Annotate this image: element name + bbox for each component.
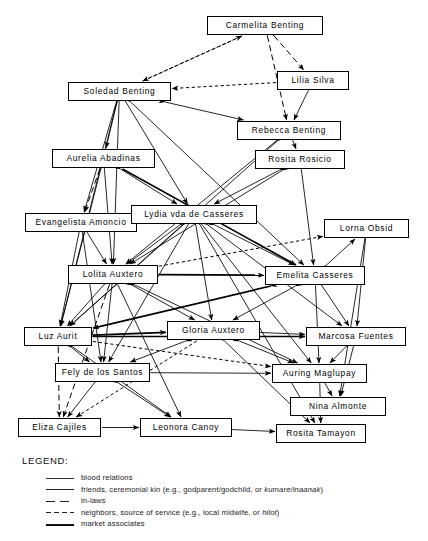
edge-emelita-to-gloria — [233, 286, 296, 320]
edge-fely-to-leonora — [118, 383, 170, 417]
edge-marcosa-to-auring — [330, 347, 346, 363]
node-leonora[interactable]: Leonora Canoy — [140, 418, 232, 437]
edge-lolita-to-fely — [104, 285, 112, 362]
edge-emelita-to-marcosa — [322, 286, 349, 326]
edge-luz-to-leonora — [73, 347, 171, 417]
legend-item-inlaws: in-laws — [22, 496, 412, 505]
edge-luz-to-gloria — [93, 332, 166, 335]
edge-soledad-to-carmelita — [143, 36, 242, 81]
node-aurelia[interactable]: Aurelia Abadinas — [52, 149, 155, 168]
node-label: Auring Maglupay — [283, 369, 356, 377]
edge-fely-to-eliza — [68, 383, 95, 417]
edge-soledad-to-rebecca — [165, 102, 243, 120]
edge-lilia-to-rebecca — [294, 91, 308, 120]
node-auring[interactable]: Auring Maglupay — [272, 364, 367, 383]
node-label: Lorna Obsid — [340, 224, 393, 232]
node-label: Marcosa Fuentes — [318, 332, 393, 340]
legend-item-neighbors: neighbors, source of service (e.g., loca… — [22, 508, 412, 517]
legend-line-blood-icon — [46, 474, 74, 482]
legend-item-friends: friends, ceremonial kin (e.g., godparent… — [22, 485, 412, 494]
node-gloria[interactable]: Gloria Auxtero — [167, 321, 260, 340]
node-label: Luz Aurit — [39, 332, 78, 340]
edge-rosita_r-to-lydia — [214, 170, 280, 204]
edge-aurelia-to-luz — [61, 169, 101, 326]
legend-item-label: blood relations — [81, 473, 133, 482]
edge-emelita-to-auring — [316, 286, 320, 363]
node-lilia[interactable]: Lilia Silva — [277, 71, 349, 90]
node-nina[interactable]: Nina Almonte — [290, 397, 386, 416]
edge-leonora-to-rosita_t — [233, 430, 275, 432]
node-label: Soledad Benting — [84, 87, 156, 95]
node-label: Gloria Auxtero — [182, 326, 245, 334]
node-label: Leonora Canoy — [153, 423, 219, 431]
node-evangelista[interactable]: Evangelista Amoncio — [25, 213, 137, 232]
legend: LEGEND: blood relationsfriends, ceremoni… — [22, 455, 412, 531]
node-rosita_r[interactable]: Rosita Rosicio — [255, 150, 345, 169]
legend-line-neighbors-icon — [46, 508, 74, 516]
node-label: Lydia vda de Casseres — [144, 210, 244, 218]
edge-gloria-to-auring — [239, 341, 293, 363]
legend-line-friends-icon — [46, 485, 74, 493]
node-label: Nina Almonte — [309, 402, 367, 410]
node-lorna[interactable]: Lorna Obsid — [324, 219, 409, 238]
legend-title: LEGEND: — [22, 455, 412, 466]
node-label: Fely de los Santos — [62, 368, 144, 376]
legend-item-market: market associates — [22, 519, 412, 528]
edge-emelita-to-lorna — [327, 239, 356, 265]
legend-item-blood: blood relations — [22, 473, 412, 482]
legend-line-market-icon — [46, 520, 74, 528]
edge-soledad-to-aurelia — [106, 102, 117, 148]
legend-line-inlaws-icon — [46, 497, 74, 505]
node-marcosa[interactable]: Marcosa Fuentes — [306, 327, 406, 346]
edge-lydia-to-gloria — [196, 225, 212, 320]
node-lolita[interactable]: Lolita Auxtero — [68, 265, 158, 284]
edge-rosita_r-to-emelita — [301, 170, 313, 265]
node-rosita_t[interactable]: Rosita Tamayon — [276, 424, 366, 443]
edge-lolita-to-luz — [67, 285, 103, 326]
legend-item-label: market associates — [81, 519, 145, 528]
node-carmelita[interactable]: Carmelita Benting — [207, 16, 323, 35]
edge-lolita-to-gloria — [132, 285, 195, 320]
node-eliza[interactable]: Eliza Cajiles — [18, 418, 101, 437]
node-label: Aurelia Abadinas — [66, 154, 140, 162]
node-luz[interactable]: Luz Aurit — [24, 327, 92, 346]
node-emelita[interactable]: Emelita Casseres — [265, 266, 365, 285]
node-label: Rosita Rosicio — [268, 155, 331, 163]
edge-lydia-to-auring — [202, 225, 311, 363]
legend-item-label: in-laws — [81, 496, 106, 505]
node-rebecca[interactable]: Rebecca Benting — [237, 121, 341, 140]
node-soledad[interactable]: Soledad Benting — [68, 82, 171, 101]
edge-luz-to-fely — [71, 347, 90, 362]
edge-carmelita-to-soledad — [143, 36, 242, 81]
edge-evangelista-to-lolita — [88, 233, 107, 264]
edge-carmelita-to-lilia — [274, 36, 304, 70]
legend-item-label: neighbors, source of service (e.g., loca… — [81, 508, 280, 517]
edge-rebecca-to-rosita_r — [293, 141, 296, 149]
network-diagram: Carmelita BentingLilia SilvaSoledad Bent… — [0, 0, 428, 541]
edge-gloria-to-marcosa — [261, 333, 305, 335]
edge-gloria-to-fely — [130, 341, 186, 362]
edge-lolita-to-lorna — [159, 236, 323, 266]
node-label: Rebecca Benting — [252, 126, 326, 134]
node-fely[interactable]: Fely de los Santos — [55, 363, 150, 382]
edge-lilia-to-soledad — [172, 83, 276, 89]
node-label: Rosita Tamayon — [286, 429, 356, 437]
edge-soledad-to-lolita — [113, 102, 119, 264]
node-lydia[interactable]: Lydia vda de Casseres — [131, 205, 257, 224]
edge-luz-to-eliza — [58, 347, 59, 417]
legend-rows: blood relationsfriends, ceremonial kin (… — [22, 473, 412, 528]
node-label: Emelita Casseres — [277, 271, 354, 279]
edge-lolita-to-eliza — [63, 285, 109, 417]
edge-lolita-to-emelita — [159, 275, 264, 276]
edge-rebecca-to-luz — [70, 141, 277, 326]
node-label: Eliza Cajiles — [32, 423, 87, 431]
edge-fely-to-auring — [151, 373, 271, 374]
node-label: Carmelita Benting — [226, 21, 304, 29]
legend-item-label: friends, ceremonial kin (e.g., godparent… — [81, 485, 323, 494]
node-label: Lilia Silva — [291, 76, 334, 84]
node-label: Lolita Auxtero — [83, 270, 144, 278]
edge-lydia-to-fely — [109, 225, 188, 362]
edge-aurelia-to-lydia — [121, 169, 178, 204]
edge-aurelia-to-evangelista — [85, 169, 100, 212]
edge-lolita-to-leonora — [118, 285, 181, 417]
